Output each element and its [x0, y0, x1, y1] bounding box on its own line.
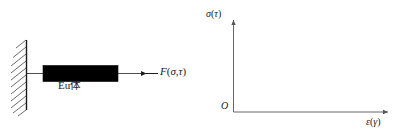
force-close-paren: )	[183, 65, 187, 77]
eu-body-block-label: Eu体	[58, 80, 80, 91]
y-axis-label: σ(τ)	[206, 9, 221, 19]
force-label: F(σ,τ)	[160, 66, 186, 77]
x-axis-close-paren: )	[377, 116, 380, 127]
figure-vector-layer	[0, 0, 403, 135]
y-axis-close-paren: )	[218, 8, 221, 19]
fixed-wall-support	[11, 40, 27, 116]
wall-hatch-lines	[11, 40, 26, 116]
eu-body-label-cjk: 体	[70, 79, 80, 91]
eu-body-label-latin: Eu	[58, 79, 70, 91]
mechanics-figure: Eu体 F(σ,τ) σ(τ) ε(γ) O	[0, 0, 403, 135]
plot-axes	[234, 20, 389, 112]
eu-body-block	[43, 66, 118, 82]
x-axis-label: ε(γ)	[366, 117, 381, 127]
force-symbol: F	[160, 65, 167, 77]
origin-label: O	[221, 101, 228, 111]
